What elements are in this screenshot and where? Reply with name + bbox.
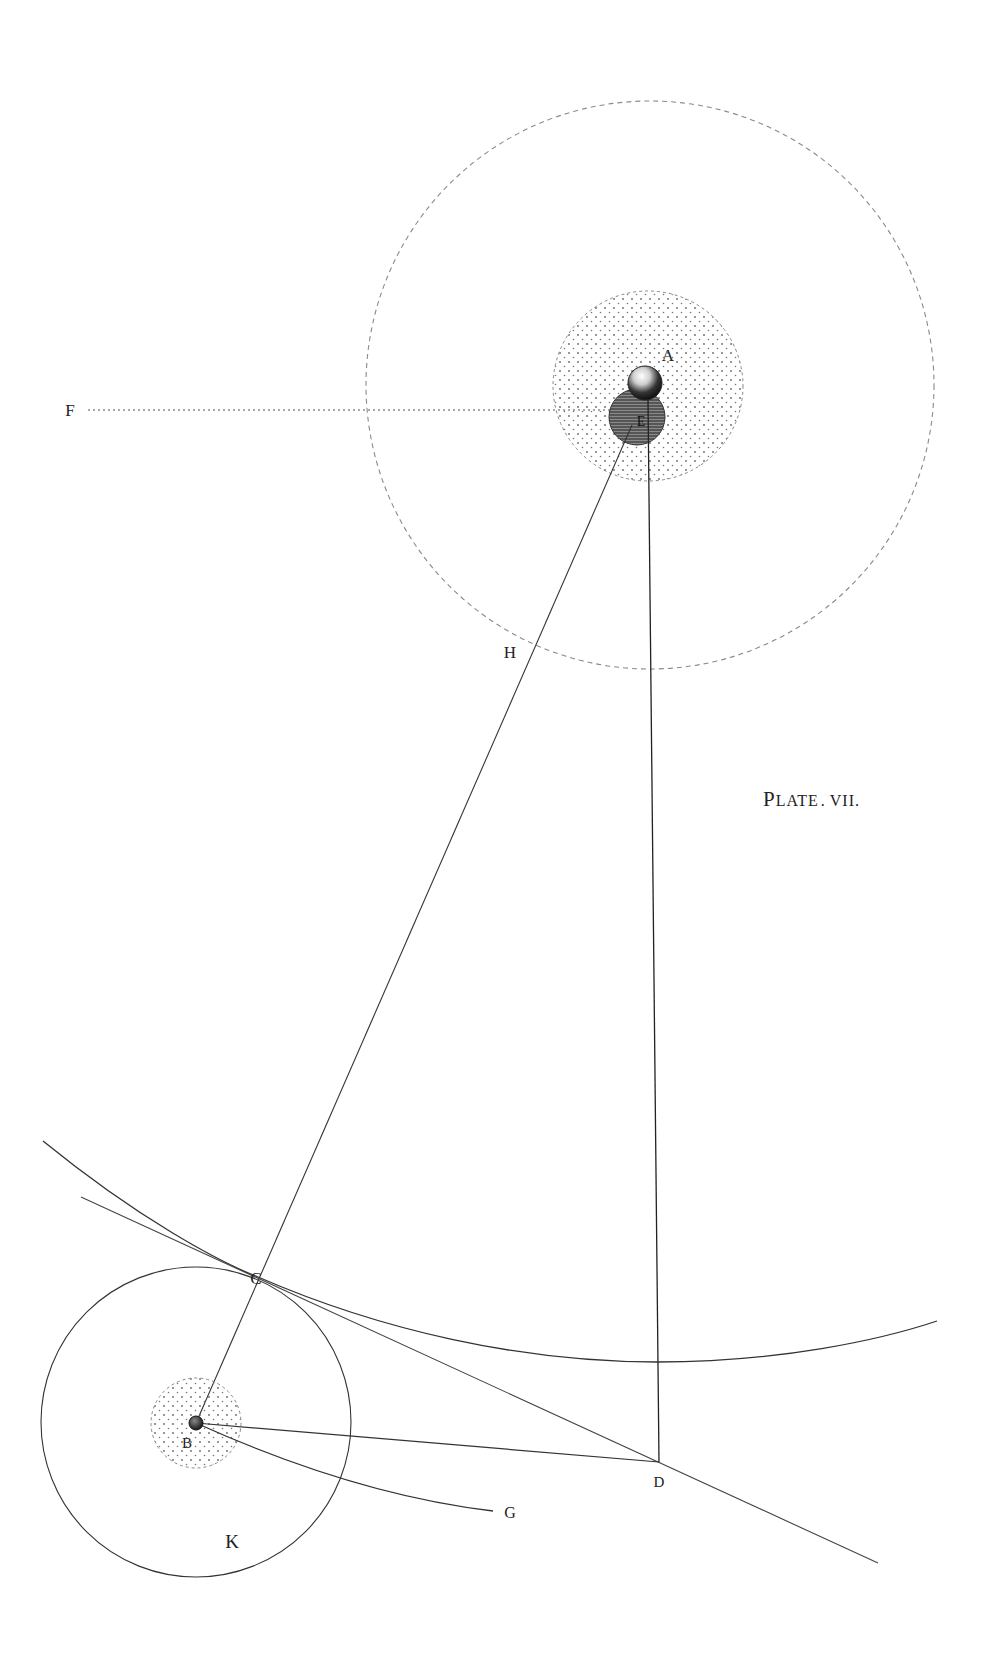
label-h: H [504, 643, 516, 662]
line-ad [648, 400, 659, 1462]
plate-title-cap: P [763, 787, 776, 811]
plate-title-sep: . [821, 792, 826, 809]
label-d: D [654, 1474, 665, 1490]
label-c: C [250, 1269, 261, 1288]
label-k: K [225, 1531, 239, 1552]
label-g: G [504, 1504, 516, 1521]
label-e: E [637, 414, 646, 429]
label-f: F [65, 401, 74, 420]
label-a: A [662, 346, 675, 365]
plate-title: PLATE.VII. [763, 787, 860, 811]
plate-title-end: . [855, 792, 860, 809]
plate-title-num: VII [830, 792, 855, 809]
plate-diagram: A E F H C B D G K PLATE.VII. [0, 0, 997, 1666]
label-b: B [182, 1435, 192, 1451]
plate-title-rest: LATE [776, 792, 819, 809]
small-sphere-b [189, 1416, 203, 1430]
shiny-sphere-a [628, 366, 662, 400]
line-bd [196, 1423, 659, 1462]
large-arc-curve [43, 1141, 937, 1362]
